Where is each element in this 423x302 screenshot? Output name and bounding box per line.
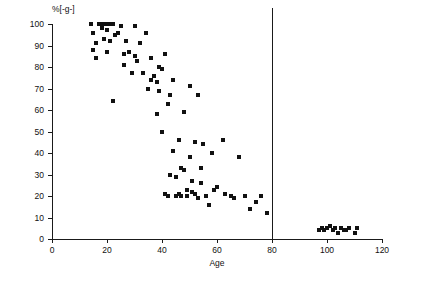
- x-tick-label: 120: [375, 245, 389, 255]
- y-tick-label: 80: [35, 62, 44, 72]
- data-point: [157, 89, 161, 93]
- data-point: [124, 39, 128, 43]
- data-point: [135, 59, 139, 63]
- data-point: [127, 50, 131, 54]
- data-point: [265, 211, 269, 215]
- data-point: [188, 155, 192, 159]
- data-point: [105, 50, 109, 54]
- data-point: [336, 231, 340, 235]
- data-point: [119, 24, 123, 28]
- data-point: [207, 203, 211, 207]
- data-point: [182, 168, 186, 172]
- y-tick-label: 90: [35, 41, 44, 51]
- data-point: [91, 48, 95, 52]
- data-point: [353, 231, 357, 235]
- y-tick-mark: [48, 67, 52, 68]
- data-point: [199, 166, 203, 170]
- data-point: [116, 31, 120, 35]
- data-point: [168, 93, 172, 97]
- y-tick-mark: [48, 46, 52, 47]
- data-point: [89, 22, 93, 26]
- x-tick-mark: [162, 239, 163, 243]
- x-tick-label: 20: [102, 245, 111, 255]
- data-point: [347, 226, 351, 230]
- scatter-chart: %[-g-] Age 020406080100120 0102030405060…: [0, 0, 423, 302]
- data-point: [141, 71, 145, 75]
- data-point: [185, 188, 189, 192]
- data-point: [185, 194, 189, 198]
- data-point: [171, 149, 175, 153]
- y-tick-mark: [48, 132, 52, 133]
- data-point: [102, 37, 106, 41]
- data-point: [94, 56, 98, 60]
- x-tick-label: 100: [320, 245, 334, 255]
- data-point: [100, 26, 104, 30]
- data-point: [355, 226, 359, 230]
- data-point: [163, 52, 167, 56]
- x-axis-label: Age: [209, 258, 224, 268]
- data-point: [171, 78, 175, 82]
- data-point: [149, 56, 153, 60]
- data-point: [94, 41, 98, 45]
- data-point: [138, 41, 142, 45]
- data-point: [146, 87, 150, 91]
- y-tick-label: 50: [35, 127, 44, 137]
- data-point: [144, 31, 148, 35]
- data-point: [254, 200, 258, 204]
- data-point: [223, 192, 227, 196]
- y-tick-mark: [48, 239, 52, 240]
- data-point: [111, 22, 115, 26]
- x-tick-mark: [327, 239, 328, 243]
- x-tick-mark: [272, 239, 273, 243]
- y-tick-mark: [48, 218, 52, 219]
- data-point: [196, 196, 200, 200]
- y-tick-label: 70: [35, 84, 44, 94]
- data-point: [188, 84, 192, 88]
- data-point: [248, 207, 252, 211]
- data-point: [204, 194, 208, 198]
- data-point: [259, 194, 263, 198]
- data-point: [210, 151, 214, 155]
- data-point: [243, 194, 247, 198]
- y-tick-label: 30: [35, 170, 44, 180]
- data-point: [108, 39, 112, 43]
- data-point: [122, 52, 126, 56]
- y-tick-label: 60: [35, 105, 44, 115]
- y-tick-mark: [48, 110, 52, 111]
- data-point: [111, 99, 115, 103]
- data-point: [215, 185, 219, 189]
- y-tick-label: 10: [35, 213, 44, 223]
- data-point: [166, 102, 170, 106]
- data-point: [193, 140, 197, 144]
- data-point: [221, 138, 225, 142]
- y-tick-label: 100: [30, 19, 44, 29]
- y-tick-label: 40: [35, 148, 44, 158]
- data-point: [91, 31, 95, 35]
- data-point: [149, 78, 153, 82]
- data-point: [155, 80, 159, 84]
- vertical-reference-line: [272, 8, 273, 239]
- data-point: [196, 93, 200, 97]
- y-tick-mark: [48, 153, 52, 154]
- data-point: [179, 194, 183, 198]
- data-point: [152, 74, 156, 78]
- x-tick-label: 80: [267, 245, 276, 255]
- y-tick-label: 0: [39, 234, 44, 244]
- data-point: [174, 175, 178, 179]
- y-axis-label: %[-g-]: [52, 4, 75, 14]
- data-point: [182, 110, 186, 114]
- data-point: [122, 63, 126, 67]
- data-point: [199, 181, 203, 185]
- data-point: [166, 194, 170, 198]
- x-tick-mark: [382, 239, 383, 243]
- data-point: [237, 155, 241, 159]
- data-point: [232, 196, 236, 200]
- data-point: [160, 130, 164, 134]
- y-tick-mark: [48, 24, 52, 25]
- x-tick-label: 60: [212, 245, 221, 255]
- data-point: [168, 173, 172, 177]
- x-tick-label: 0: [50, 245, 55, 255]
- plot-area: %[-g-] Age 020406080100120 0102030405060…: [52, 24, 382, 239]
- data-point: [133, 24, 137, 28]
- y-tick-mark: [48, 175, 52, 176]
